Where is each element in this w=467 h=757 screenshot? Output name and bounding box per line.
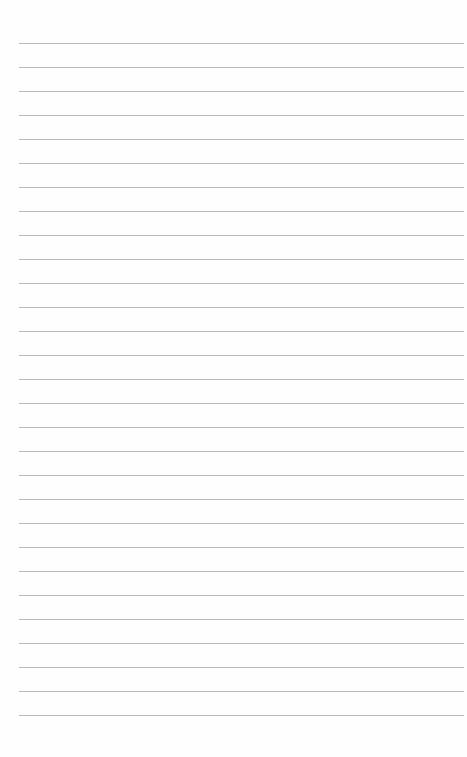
ruled-line bbox=[19, 691, 464, 692]
ruled-line bbox=[19, 139, 464, 140]
ruled-line bbox=[19, 163, 464, 164]
ruled-line bbox=[19, 187, 464, 188]
ruled-line bbox=[19, 403, 464, 404]
ruled-line bbox=[19, 715, 464, 716]
ruled-line bbox=[19, 91, 464, 92]
ruled-line bbox=[19, 355, 464, 356]
ruled-line bbox=[19, 667, 464, 668]
lined-paper-page bbox=[0, 0, 467, 757]
ruled-line bbox=[19, 619, 464, 620]
ruled-line bbox=[19, 475, 464, 476]
ruled-line bbox=[19, 427, 464, 428]
ruled-line bbox=[19, 451, 464, 452]
ruled-line bbox=[19, 379, 464, 380]
ruled-line bbox=[19, 547, 464, 548]
ruled-line bbox=[19, 331, 464, 332]
ruled-line bbox=[19, 235, 464, 236]
ruled-line bbox=[19, 595, 464, 596]
ruled-line bbox=[19, 115, 464, 116]
ruled-line bbox=[19, 283, 464, 284]
ruled-line bbox=[19, 211, 464, 212]
ruled-line bbox=[19, 43, 464, 44]
ruled-line bbox=[19, 307, 464, 308]
ruled-line bbox=[19, 523, 464, 524]
ruled-line bbox=[19, 643, 464, 644]
ruled-line bbox=[19, 259, 464, 260]
ruled-line bbox=[19, 499, 464, 500]
ruled-line bbox=[19, 571, 464, 572]
ruled-line bbox=[19, 67, 464, 68]
